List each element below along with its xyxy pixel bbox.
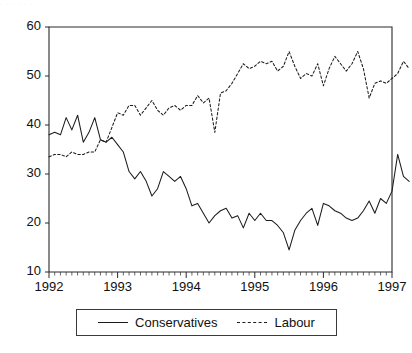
legend-swatch-dotted: [237, 322, 267, 323]
y-tick-label: 50: [27, 67, 41, 82]
x-tick-label: 1996: [309, 279, 338, 294]
line-chart-svg: 102030405060 199219931994199519961997: [0, 9, 412, 300]
chart-screenshot: · · · · · · 102030405060 199219931994199…: [0, 0, 412, 353]
series-line-labour: [49, 52, 409, 157]
y-axis-ticks: [45, 27, 49, 272]
plot-area: 102030405060 199219931994199519961997: [0, 9, 412, 300]
y-tick-label: 30: [27, 165, 41, 180]
legend-label-labour: Labour: [274, 315, 314, 330]
clipped-header-text: · · · · · ·: [0, 0, 412, 9]
series-line-conservatives: [49, 115, 409, 250]
legend-label-conservatives: Conservatives: [135, 315, 217, 330]
x-axis-labels: 199219931994199519961997: [35, 279, 407, 294]
data-series-group: [49, 52, 409, 250]
x-tick-label: 1994: [172, 279, 201, 294]
legend-swatch-solid: [98, 322, 128, 323]
x-tick-label: 1997: [378, 279, 407, 294]
y-tick-label: 20: [27, 214, 41, 229]
chart-legend: Conservatives Labour: [76, 309, 337, 336]
y-axis-labels: 102030405060: [27, 18, 41, 278]
legend-item-labour[interactable]: Labour: [237, 315, 314, 330]
y-tick-label: 40: [27, 116, 41, 131]
x-tick-label: 1993: [103, 279, 132, 294]
legend-item-conservatives[interactable]: Conservatives: [98, 315, 217, 330]
x-tick-label: 1995: [240, 279, 269, 294]
x-tick-label: 1992: [35, 279, 64, 294]
y-tick-label: 10: [27, 263, 41, 278]
y-tick-label: 60: [27, 18, 41, 33]
